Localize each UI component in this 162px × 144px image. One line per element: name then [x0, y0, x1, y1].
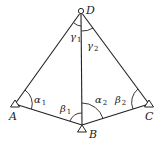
arc-alpha1 — [25, 90, 32, 109]
arc-gamma1 — [74, 23, 81, 26]
segment-BC — [82, 104, 149, 125]
station-triangle-icon — [145, 100, 154, 107]
station-circle-icon — [78, 8, 83, 13]
angle-label-beta1: β1 — [59, 103, 71, 116]
diagram-canvas: D A B C α1 β1 α2 β2 γ1 γ2 — [0, 0, 162, 144]
segment-DC — [83, 14, 150, 104]
arc-beta1 — [70, 113, 82, 121]
segment-AB — [15, 104, 82, 125]
triangulation-diagram: D A B C α1 β1 α2 β2 γ1 γ2 — [0, 0, 162, 144]
arc-gamma2 — [81, 28, 93, 31]
station-triangle-icon — [78, 125, 87, 132]
point-label-A: A — [8, 110, 17, 123]
angle-label-gamma1: γ1 — [70, 31, 81, 44]
angle-label-beta2: β2 — [114, 94, 126, 107]
segment-AD — [15, 14, 80, 104]
point-label-B: B — [88, 128, 97, 141]
point-label-D: D — [85, 4, 95, 17]
angle-label-gamma2: γ2 — [87, 40, 98, 53]
point-label-C: C — [145, 110, 154, 123]
arc-beta2 — [132, 89, 138, 109]
arc-alpha2 — [82, 103, 103, 119]
angle-label-alpha1: α1 — [34, 94, 46, 107]
angle-label-alpha2: α2 — [95, 94, 107, 107]
station-triangle-icon — [11, 100, 20, 107]
